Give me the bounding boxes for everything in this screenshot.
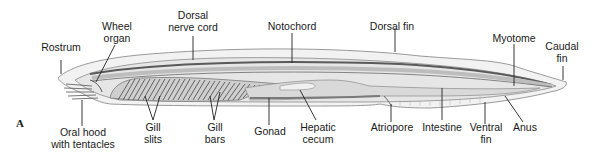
label-rostrum: Rostrum <box>41 42 81 54</box>
label-hepatic-cecum: Hepatic cecum <box>300 122 336 145</box>
label-anus: Anus <box>513 122 537 134</box>
label-notochord: Notochord <box>268 21 316 33</box>
label-wheel-organ: Wheel organ <box>102 21 132 44</box>
label-gill-slits: Gill slits <box>144 122 162 145</box>
label-oral-hood: Oral hood with tentacles <box>51 127 115 150</box>
label-ventral-fin: Ventral fin <box>470 122 503 145</box>
label-dorsal-nerve-cord: Dorsal nerve cord <box>168 10 218 33</box>
label-caudal-fin: Caudal fin <box>545 41 578 64</box>
label-atriopore: Atriopore <box>371 122 414 134</box>
label-dorsal-fin: Dorsal fin <box>370 21 414 33</box>
label-intestine: Intestine <box>422 122 462 134</box>
label-myotome: Myotome <box>492 33 535 45</box>
label-gonad: Gonad <box>254 126 286 138</box>
label-gill-bars: Gill bars <box>205 122 225 145</box>
panel-letter: A <box>16 117 24 129</box>
